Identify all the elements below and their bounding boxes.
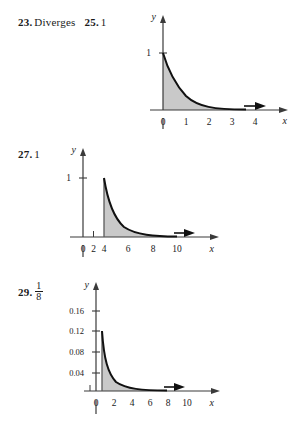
chart-27-svg: 1 0 2 4 6 8 10 y x [62,145,222,265]
answer-line-23-25: 23.Diverges25.1 [18,16,107,28]
chart-25-xtick-label-2: 2 [207,117,212,127]
chart-27-xtick-label-8: 8 [151,244,156,254]
chart-29-xtick-label-2: 2 [112,398,117,408]
answer-number-23: 23. [18,16,32,28]
chart-27-xtick-label-4: 4 [102,244,107,254]
chart-27-asymptote-arrowhead [184,229,195,237]
chart-25-y-axis-label: y [151,11,157,22]
answer-number-25: 25. [84,16,98,28]
chart-29-xtick-label-0: 0 [94,398,99,408]
chart-29-shaded-area [102,331,167,391]
chart-29-x-axis-arrow [211,388,220,394]
chart-29-x-axis-label: x [209,397,215,408]
chart-25-asymptote-arrowhead [255,102,266,110]
answer-value-27: 1 [34,148,40,160]
chart-27: 1 0 2 4 6 8 10 y x [62,145,222,265]
chart-27-y-axis-label: y [71,144,77,155]
chart-27-y-axis-arrow [80,148,86,156]
chart-25-svg: 1 0 1 2 3 4 y x [148,12,289,137]
chart-25-x-axis-label: x [282,115,288,126]
chart-27-xtick-label-2: 2 [91,244,96,254]
chart-25-x-axis-arrow [279,107,288,113]
chart-27-shaded-area [104,178,177,237]
chart-27-x-axis-label: x [209,243,215,254]
chart-29-asymptote-arrowhead [174,383,185,391]
chart-27-xtick-label-0: 0 [81,244,86,254]
chart-27-xtick-label-10: 10 [172,244,182,254]
chart-27-x-axis-arrow [210,234,219,240]
chart-29-ytick-label-004: 0.04 [69,368,85,378]
chart-29-y-axis-arrow [93,282,99,290]
chart-25-xtick-label-4: 4 [253,117,258,127]
chart-25-y-axis-arrow [160,15,166,23]
chart-29-ytick-label-016: 0.16 [69,306,84,316]
answer-value-23: Diverges [34,16,75,28]
chart-29: 0.16 0.12 0.08 0.04 0 2 4 6 8 10 y x [40,278,225,428]
answer-line-29: 29.18 [18,281,43,302]
answer-line-27: 27.1 [18,148,40,160]
answer-value-25: 1 [101,16,107,28]
chart-27-ytick-label-1: 1 [66,173,71,183]
chart-29-xtick-label-8: 8 [166,398,171,408]
chart-29-ytick-label-008: 0.08 [69,347,84,357]
chart-25-xtick-label-1: 1 [184,117,189,127]
answer-number-29: 29. [18,286,32,298]
chart-25-xtick-label-0: 0 [161,117,166,127]
chart-29-xtick-label-10: 10 [182,398,192,408]
chart-29-y-axis-label: y [84,279,90,290]
chart-25-ytick-label-1: 1 [146,48,151,58]
chart-27-xtick-label-6: 6 [126,244,131,254]
chart-29-xtick-label-6: 6 [148,398,153,408]
chart-29-xtick-label-4: 4 [130,398,135,408]
chart-25: 1 0 1 2 3 4 y x [148,12,289,137]
chart-25-xtick-label-3: 3 [230,117,235,127]
chart-29-ytick-label-012: 0.12 [69,326,84,336]
chart-29-svg: 0.16 0.12 0.08 0.04 0 2 4 6 8 10 y x [40,278,225,428]
answer-number-27: 27. [18,148,32,160]
